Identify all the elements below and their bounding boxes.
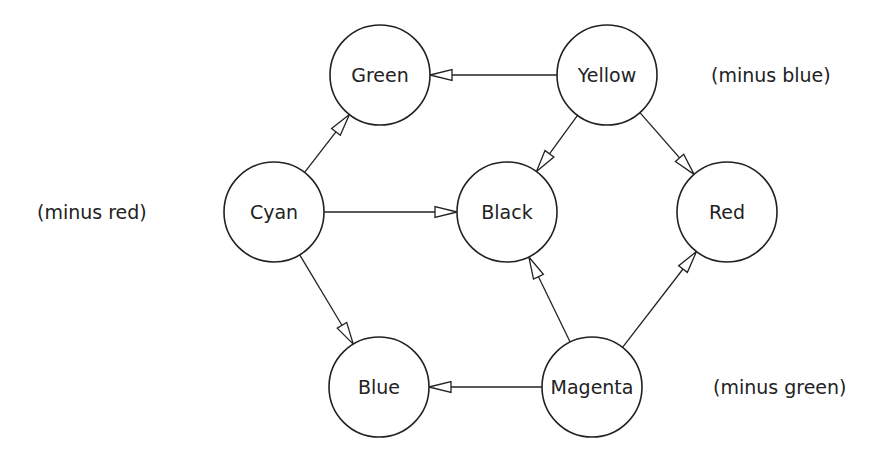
annotation-minus-blue: (minus blue) <box>711 64 831 86</box>
edge-line <box>640 113 680 158</box>
nodes-layer: GreenYellowCyanBlackRedBlueMagenta <box>224 25 777 437</box>
arrowhead-icon <box>679 252 697 273</box>
edge-yellow-to-red <box>640 113 694 175</box>
color-subtraction-diagram: GreenYellowCyanBlackRedBlueMagenta (minu… <box>0 0 894 456</box>
node-label: Yellow <box>577 64 637 86</box>
arrowhead-icon <box>435 207 457 218</box>
annotation-minus-green: (minus green) <box>713 376 847 398</box>
edge-magenta-to-blue <box>429 382 542 393</box>
edge-cyan-to-black <box>324 207 457 218</box>
arrowhead-icon <box>337 322 353 344</box>
arrowhead-icon <box>536 151 553 172</box>
arrowhead-icon <box>529 257 544 279</box>
node-label: Blue <box>358 376 400 398</box>
edge-line <box>623 269 683 347</box>
edge-line <box>538 277 570 342</box>
node-red: Red <box>677 162 777 262</box>
node-label: Cyan <box>250 201 298 223</box>
arrowhead-icon <box>332 115 350 136</box>
annotation-minus-red: (minus red) <box>37 201 147 223</box>
edge-line <box>549 115 577 153</box>
arrowhead-icon <box>429 382 451 393</box>
node-label: Magenta <box>551 376 634 398</box>
edge-cyan-to-blue <box>300 255 354 344</box>
node-label: Black <box>481 201 532 223</box>
edge-line <box>305 132 336 173</box>
edge-yellow-to-black <box>536 115 577 171</box>
edge-line <box>300 255 342 325</box>
node-black: Black <box>457 162 557 262</box>
node-yellow: Yellow <box>557 25 657 125</box>
arrowhead-icon <box>430 70 452 81</box>
edge-yellow-to-green <box>430 70 557 81</box>
node-magenta: Magenta <box>542 337 642 437</box>
node-label: Green <box>351 64 409 86</box>
edge-cyan-to-green <box>305 115 350 173</box>
edge-magenta-to-black <box>529 257 570 342</box>
node-green: Green <box>330 25 430 125</box>
edge-magenta-to-red <box>623 252 697 348</box>
node-blue: Blue <box>329 337 429 437</box>
node-label: Red <box>709 201 745 223</box>
node-cyan: Cyan <box>224 162 324 262</box>
